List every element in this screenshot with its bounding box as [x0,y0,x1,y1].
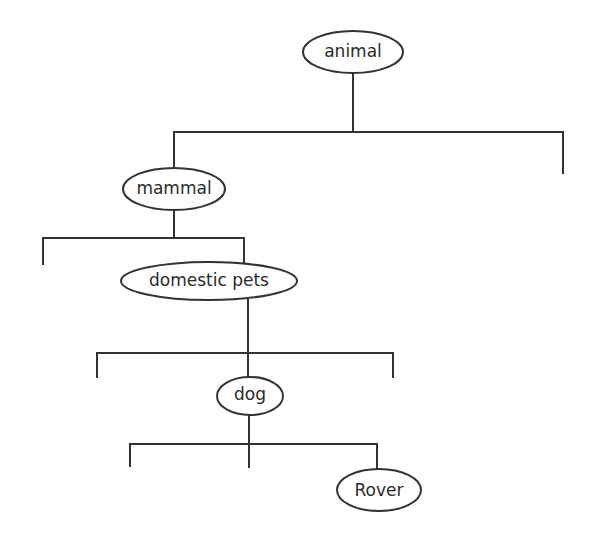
edges [43,73,563,469]
node-animal: animal [303,31,403,73]
node-domestic-pets-label: domestic pets [149,270,269,290]
tree-diagram: animal mammal domestic pets dog Rover [0,0,597,543]
node-dog: dog [217,377,283,415]
node-domestic-pets: domestic pets [121,262,297,300]
node-rover-label: Rover [355,480,404,500]
node-dog-label: dog [234,384,266,404]
nodes: animal mammal domestic pets dog Rover [121,31,421,511]
node-animal-label: animal [324,41,382,61]
node-mammal-label: mammal [136,178,211,198]
node-rover: Rover [337,469,421,511]
node-mammal: mammal [123,168,225,210]
